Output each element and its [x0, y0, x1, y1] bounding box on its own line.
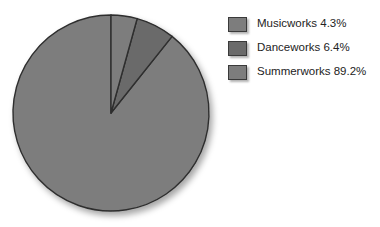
- legend-swatch-musicworks: [228, 17, 247, 32]
- legend-item-danceworks[interactable]: Danceworks 6.4%: [228, 36, 376, 60]
- legend-label-musicworks: Musicworks 4.3%: [257, 18, 346, 30]
- legend: Musicworks 4.3% Danceworks 6.4% Summerwo…: [228, 12, 376, 84]
- legend-item-summerworks[interactable]: Summerworks 89.2%: [228, 60, 376, 84]
- pie-svg: [12, 14, 210, 212]
- pie-slice-group: [13, 15, 209, 211]
- pie-chart-graphic: [12, 14, 210, 212]
- legend-label-danceworks: Danceworks 6.4%: [257, 42, 350, 54]
- legend-item-musicworks[interactable]: Musicworks 4.3%: [228, 12, 376, 36]
- legend-label-summerworks: Summerworks 89.2%: [257, 66, 366, 78]
- legend-swatch-summerworks: [228, 65, 247, 80]
- legend-swatch-danceworks: [228, 41, 247, 56]
- pie-chart-figure: Musicworks 4.3% Danceworks 6.4% Summerwo…: [0, 0, 380, 227]
